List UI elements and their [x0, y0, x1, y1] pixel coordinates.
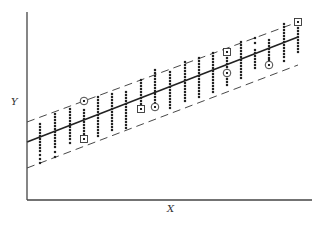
data-point [125, 121, 127, 123]
data-point [198, 87, 200, 89]
data-point [212, 73, 214, 75]
data-point [184, 73, 186, 75]
data-point [140, 91, 142, 93]
data-point [154, 81, 156, 83]
data-point [240, 71, 242, 73]
data-point [254, 52, 256, 54]
data-point [154, 106, 156, 108]
data-point [283, 32, 285, 34]
data-point [140, 94, 142, 96]
data-point [226, 63, 228, 65]
data-point [125, 127, 127, 129]
data-point [154, 90, 156, 92]
data-point [240, 62, 242, 64]
data-point [140, 103, 142, 105]
data-point [125, 112, 127, 114]
data-point [169, 89, 171, 91]
data-point [169, 101, 171, 103]
data-point [97, 102, 99, 104]
data-point [54, 116, 56, 118]
data-point [283, 23, 285, 25]
data-point [169, 74, 171, 76]
data-point [125, 94, 127, 96]
data-point [268, 39, 270, 41]
data-points [39, 23, 299, 164]
data-point [83, 133, 85, 135]
data-point [69, 111, 71, 113]
data-point [226, 57, 228, 59]
data-point [154, 84, 156, 86]
data-point [83, 138, 85, 140]
data-point [240, 65, 242, 67]
data-point [184, 88, 186, 90]
data-point [268, 48, 270, 50]
data-point [297, 36, 299, 38]
data-point [39, 158, 41, 160]
data-point [69, 108, 71, 110]
data-point [226, 51, 228, 53]
data-point [240, 56, 242, 58]
data-point [268, 45, 270, 47]
data-point [184, 70, 186, 72]
data-point [97, 105, 99, 107]
data-point [83, 118, 85, 120]
data-point [54, 125, 56, 127]
data-point [226, 66, 228, 68]
data-point [54, 156, 56, 158]
data-point [140, 82, 142, 84]
data-point [254, 58, 256, 60]
data-point [97, 126, 99, 128]
data-point [198, 84, 200, 86]
y-axis-label: Y [11, 96, 18, 107]
data-point [111, 105, 113, 107]
data-point [254, 67, 256, 69]
data-point [111, 117, 113, 119]
data-point [125, 100, 127, 102]
data-point [140, 79, 142, 81]
data-point [54, 119, 56, 121]
data-point [240, 44, 242, 46]
data-point [254, 42, 256, 44]
data-point [69, 129, 71, 131]
data-point [69, 142, 71, 144]
data-point [83, 127, 85, 129]
data-point [268, 42, 270, 44]
data-point [169, 107, 171, 109]
data-point [198, 96, 200, 98]
data-point [212, 79, 214, 81]
data-point [169, 104, 171, 106]
data-point [140, 85, 142, 87]
data-point [198, 75, 200, 77]
data-point [54, 134, 56, 136]
data-point [198, 63, 200, 65]
data-point [184, 82, 186, 84]
data-point [240, 68, 242, 70]
data-point [39, 132, 41, 134]
data-point [283, 56, 285, 58]
data-point [198, 72, 200, 74]
data-point [97, 135, 99, 137]
data-point [140, 108, 142, 110]
data-point [283, 29, 285, 31]
data-point [198, 90, 200, 92]
data-point [83, 100, 85, 102]
data-point [111, 108, 113, 110]
data-point [97, 117, 99, 119]
data-point [283, 53, 285, 55]
scatter-plot [0, 0, 325, 225]
data-point [226, 81, 228, 83]
data-point [39, 126, 41, 128]
data-point [198, 57, 200, 59]
data-point [212, 55, 214, 57]
data-point [111, 102, 113, 104]
data-point [240, 53, 242, 55]
data-point [125, 106, 127, 108]
data-point [169, 95, 171, 97]
data-point [240, 59, 242, 61]
data-point [184, 64, 186, 66]
data-point [39, 144, 41, 146]
data-point [297, 21, 299, 23]
data-point [154, 93, 156, 95]
data-point [69, 135, 71, 137]
data-point [240, 77, 242, 79]
